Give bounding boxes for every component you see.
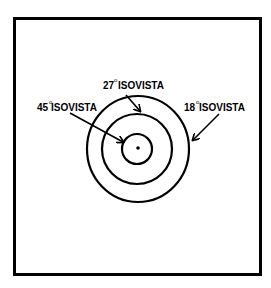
label-18-angle: 18 — [184, 102, 196, 113]
label-45-isovista: 45 o ISOVISTA — [37, 99, 97, 113]
label-27-angle: 27 — [103, 80, 115, 91]
label-45-angle: 45 — [37, 102, 49, 113]
label-27-isovista: 27 o ISOVISTA — [103, 77, 164, 91]
center-point — [136, 146, 140, 150]
isovista-diagram: 45 o ISOVISTA 27 o ISOVISTA 18 o ISOVIST… — [0, 0, 271, 288]
label-45-text: ISOVISTA — [51, 102, 97, 113]
label-18-text: ISOVISTA — [199, 102, 245, 113]
arrow-18-isovista — [193, 114, 219, 140]
svg-text:45: 45 — [37, 102, 49, 113]
arrow-27-isovista — [126, 95, 140, 111]
label-18-isovista: 18 o ISOVISTA — [184, 99, 245, 113]
label-27-text: ISOVISTA — [118, 80, 164, 91]
